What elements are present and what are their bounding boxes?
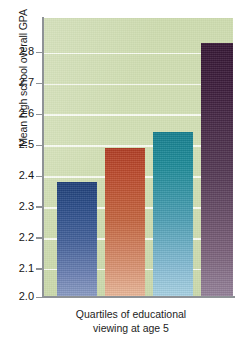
y-tick-label-2-5: 2.5: [2, 139, 34, 150]
bar-group: [44, 18, 233, 296]
y-tick-label-2-1: 2.1: [2, 263, 34, 274]
y-tick-mark-2-0: [36, 297, 43, 299]
y-tick-mark-2-2: [36, 237, 43, 239]
plot-area: [44, 18, 233, 296]
x-axis-title-line-1: Quartiles of educational: [28, 308, 234, 322]
bar-quartile-3[interactable]: [153, 132, 193, 296]
y-tick-mark-2-8: [36, 52, 43, 54]
y-tick-mark-2-7: [36, 83, 43, 85]
y-tick-mark-2-3: [36, 206, 43, 208]
y-tick-mark-2-5: [36, 145, 43, 147]
y-tick-label-2-6: 2.6: [2, 108, 34, 119]
bar-quartile-1[interactable]: [57, 182, 97, 296]
x-axis-line: [42, 296, 235, 298]
y-tick-label-2-8: 2.8: [2, 46, 34, 57]
bar-chart: Mean high school overall GPA 2.8 2.7 2.6…: [0, 0, 246, 337]
x-axis-title-line-2: viewing at age 5: [28, 322, 234, 336]
y-axis-title: Mean high school overall GPA: [17, 0, 29, 193]
bar-quartile-4[interactable]: [201, 43, 233, 296]
y-tick-label-2-4: 2.4: [2, 170, 34, 181]
y-tick-mark-2-1: [36, 268, 43, 270]
y-tick-label-2-2: 2.2: [2, 232, 34, 243]
y-axis-line: [42, 17, 44, 297]
y-tick-label-2-0: 2.0: [2, 291, 34, 302]
x-axis-title: Quartiles of educational viewing at age …: [28, 308, 234, 335]
bar-quartile-2[interactable]: [105, 148, 145, 296]
y-tick-mark-2-4: [36, 176, 43, 178]
y-tick-label-2-7: 2.7: [2, 77, 34, 88]
y-tick-mark-2-6: [36, 114, 43, 116]
y-tick-label-2-3: 2.3: [2, 201, 34, 212]
